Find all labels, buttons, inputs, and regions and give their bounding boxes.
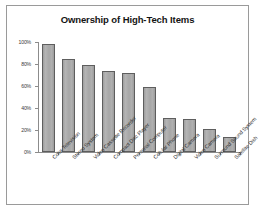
x-axis-label-text: Video Cassette Recorder [92,156,96,160]
x-axis-label-text: Digital Camera [172,156,176,160]
y-axis-tick-label: 0% [24,149,31,155]
x-axis-label: Video Cassette Recorder [92,156,96,160]
x-axis-label: Video Camera [193,156,197,160]
x-axis-label-text: Cellular Phone [152,156,156,160]
y-axis-tick-label: 20% [21,127,31,133]
y-axis-tick-label: 40% [21,105,31,111]
x-axis-label: Satellite Dish [233,156,237,160]
plot-area: 0%20%40%60%80%100% Color TelevisionStere… [38,37,243,152]
y-axis-tick: 100% [35,42,39,43]
x-axis-label-text: Stereo System [71,156,75,160]
y-axis-tick: 80% [35,64,39,65]
y-axis-tick-label: 80% [21,61,31,67]
x-axis-label-text: Satellite Dish [233,156,237,160]
y-axis-tick-label: 60% [21,83,31,89]
x-axis-label: Surround Sound System [213,156,217,160]
x-axis-label-text: Video Camera [193,156,197,160]
chart-title: Ownership of High-Tech Items [7,14,248,25]
x-axis-label: Digital Camera [172,156,176,160]
x-axis-label-text: Surround Sound System [213,156,217,160]
x-axis-label: Cellular Phone [152,156,156,160]
bar [42,44,55,152]
x-axis-label: Compact Disc Player [112,156,116,160]
x-axis-label: Color Television [51,156,55,160]
x-axis-label-text: Compact Disc Player [112,156,116,160]
y-axis-line [38,42,39,152]
x-axis-label-text: Personal Computer [132,156,136,160]
x-axis-label: Personal Computer [132,156,136,160]
y-axis-tick: 0% [35,152,39,153]
y-axis-tick: 20% [35,130,39,131]
y-axis-tick: 40% [35,108,39,109]
y-axis-tick-label: 100% [19,39,31,45]
x-axis-label-text: Color Television [51,156,55,160]
x-axis-label: Stereo System [71,156,75,160]
y-axis-tick: 60% [35,86,39,87]
chart-frame: Ownership of High-Tech Items 0%20%40%60%… [6,5,249,205]
